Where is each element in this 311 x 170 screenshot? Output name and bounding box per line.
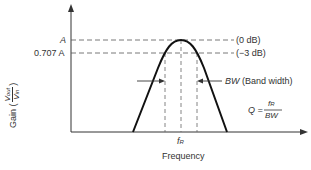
vout-v: V [3, 96, 12, 101]
level-0707-text: 0.707 A [34, 48, 65, 58]
bandwidth-label: BW (Band width) [225, 76, 293, 86]
arrow-left-icon [197, 79, 203, 84]
level-0707-label: 0.707 A [34, 48, 65, 58]
fr-sub: R [180, 139, 184, 145]
q-lhs: Q = [248, 105, 263, 115]
gain-text: Gain ( [8, 103, 18, 128]
x-axis-label: Frequency [162, 151, 205, 161]
bw-text: (Band width) [240, 76, 293, 86]
q-num-sub: R [270, 101, 274, 107]
y-axis-label: Gain ( Vout Vin ) [4, 83, 21, 128]
q-numerator: fR [268, 99, 275, 109]
center-freq-label: fR [177, 136, 184, 147]
y-axis-arrow-icon [68, 4, 74, 12]
gain-close-paren: ) [8, 83, 18, 86]
zero-db-note: (0 dB) [236, 35, 261, 45]
bw-abbr: BW [225, 76, 240, 86]
vin-sub: in [14, 90, 20, 95]
arrow-right-icon [159, 79, 165, 84]
x-axis-arrow-icon [300, 129, 308, 135]
minus3db-note: (−3 dB) [236, 48, 266, 58]
q-denominator: BW [265, 111, 278, 121]
level-a-label: A [60, 35, 66, 45]
vout-vin-fraction: Vout Vin [4, 87, 21, 103]
response-curve [133, 40, 227, 132]
vout-sub: out [5, 88, 11, 96]
vin-v: V [12, 94, 21, 99]
